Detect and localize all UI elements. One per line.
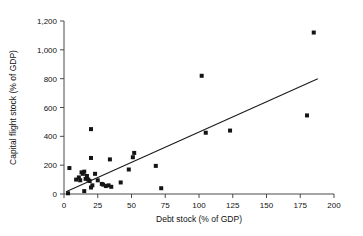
- y-tick-label-200: 200: [44, 161, 58, 170]
- x-axis-title: Debt stock (% of GDP): [156, 214, 242, 224]
- data-point-10: [85, 174, 89, 178]
- x-tick-label-25: 25: [93, 201, 102, 210]
- x-tick-label-150: 150: [260, 201, 274, 210]
- data-point-28: [132, 151, 136, 155]
- data-point-18: [96, 178, 100, 182]
- data-point-32: [204, 131, 208, 135]
- data-point-7: [82, 170, 86, 174]
- data-point-35: [312, 31, 316, 35]
- x-tick-label-0: 0: [62, 201, 67, 210]
- data-point-13: [89, 127, 93, 131]
- data-point-1: [67, 166, 71, 170]
- y-tick-label-600: 600: [44, 104, 58, 113]
- data-point-26: [127, 167, 131, 171]
- y-axis-title: Capital flight stock (% of GDP): [8, 50, 18, 165]
- scatter-chart: 025507510012515017520002004006008001,000…: [0, 0, 363, 236]
- x-tick-label-200: 200: [327, 201, 341, 210]
- y-tick-label-1,000: 1,000: [37, 46, 58, 55]
- y-tick-label-0: 0: [53, 190, 58, 199]
- data-point-34: [305, 113, 309, 117]
- data-point-12: [88, 179, 92, 183]
- y-tick-label-800: 800: [44, 75, 58, 84]
- y-tick-label-400: 400: [44, 132, 58, 141]
- data-point-27: [131, 155, 135, 159]
- data-point-8: [82, 189, 86, 193]
- x-tick-label-175: 175: [294, 201, 308, 210]
- data-point-23: [108, 157, 112, 161]
- data-point-29: [154, 164, 158, 168]
- y-tick-label-1,200: 1,200: [37, 17, 58, 26]
- x-tick-label-50: 50: [127, 201, 136, 210]
- data-point-4: [78, 178, 82, 182]
- data-point-31: [200, 74, 204, 78]
- data-point-24: [109, 185, 113, 189]
- x-tick-label-100: 100: [192, 201, 206, 210]
- data-point-25: [119, 180, 123, 184]
- trend-line: [66, 79, 318, 192]
- axis-spines: [64, 21, 334, 194]
- x-tick-label-125: 125: [226, 201, 240, 210]
- data-point-17: [93, 172, 97, 176]
- data-point-30: [159, 186, 163, 190]
- data-point-0: [66, 191, 70, 195]
- data-point-14: [89, 156, 93, 160]
- data-point-16: [90, 183, 94, 187]
- x-tick-label-75: 75: [161, 201, 170, 210]
- data-point-33: [228, 129, 232, 133]
- chart-canvas: 025507510012515017520002004006008001,000…: [0, 0, 363, 236]
